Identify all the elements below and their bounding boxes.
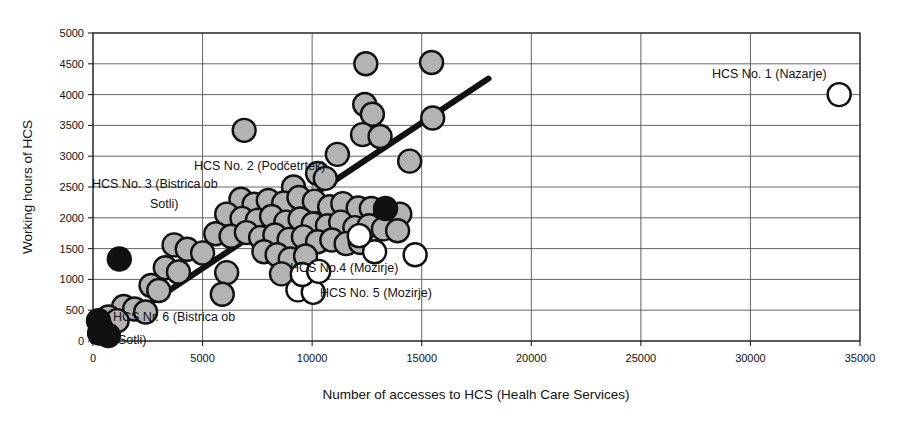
y-tick-label: 1000 <box>60 273 84 285</box>
y-axis-title: Working hours of HCS <box>20 120 35 254</box>
x-tick-label: 10000 <box>297 352 328 364</box>
data-point-marker <box>369 125 392 148</box>
data-point-marker <box>147 279 170 302</box>
chart-svg: 05000100001500020000250003000035000 0500… <box>0 0 918 431</box>
data-point-marker <box>386 219 409 242</box>
data-point-marker <box>108 248 131 271</box>
data-point-marker <box>211 283 234 306</box>
annotation-label-hcs-1: HCS No. 1 (Nazarje) <box>712 67 827 81</box>
y-tick-label: 0 <box>78 335 84 347</box>
annotation-label-hcs-4: HCS No.4 (Mozirje) <box>290 261 398 275</box>
data-point-marker <box>354 52 377 75</box>
annotation-label-hcs-6b: Sotli) <box>118 333 146 347</box>
annotation-label-hcs-6a: HCS Nr. 6 (Bistrica ob <box>113 310 235 324</box>
data-point-marker <box>398 150 421 173</box>
data-point-marker <box>191 241 214 264</box>
data-point-marker <box>420 51 443 74</box>
y-tick-label: 4000 <box>60 89 84 101</box>
y-tick-label: 1500 <box>60 243 84 255</box>
data-point-marker <box>167 261 190 284</box>
data-point-marker <box>828 83 851 106</box>
x-tick-label: 25000 <box>626 352 657 364</box>
x-tick-label: 5000 <box>190 352 214 364</box>
data-point-marker <box>404 243 427 266</box>
y-tick-label: 3000 <box>60 150 84 162</box>
data-point-marker <box>233 119 256 142</box>
scatter-chart-figure: 05000100001500020000250003000035000 0500… <box>0 0 918 431</box>
data-point-marker <box>374 197 397 220</box>
y-tick-label: 3500 <box>60 119 84 131</box>
data-point-marker <box>87 309 110 332</box>
y-tick-label: 2000 <box>60 212 84 224</box>
annotation-label-hcs-3b: Sotli) <box>150 197 178 211</box>
y-tick-label: 5000 <box>60 27 84 39</box>
y-tick-label: 2500 <box>60 181 84 193</box>
annotation-label-hcs-5: HCS No. 5 (Mozirje) <box>320 286 432 300</box>
y-tick-label: 4500 <box>60 58 84 70</box>
x-tick-label: 30000 <box>735 352 766 364</box>
x-tick-label: 15000 <box>406 352 437 364</box>
x-axis-title: Number of accesses to HCS (Healh Care Se… <box>323 387 630 402</box>
data-point-marker <box>421 107 444 130</box>
y-tick-label: 500 <box>66 304 84 316</box>
x-tick-label: 0 <box>90 352 96 364</box>
annotation-label-hcs-2: HCS No. 2 (Podčetrtek) <box>194 159 325 173</box>
chart-background <box>0 0 918 431</box>
annotation-label-hcs-3a: HCS No. 3 (Bistrica ob <box>92 177 218 191</box>
data-point-marker <box>348 224 371 247</box>
x-tick-label: 20000 <box>516 352 547 364</box>
x-tick-label: 35000 <box>845 352 876 364</box>
data-point-marker <box>215 261 238 284</box>
data-point-marker <box>326 143 349 166</box>
